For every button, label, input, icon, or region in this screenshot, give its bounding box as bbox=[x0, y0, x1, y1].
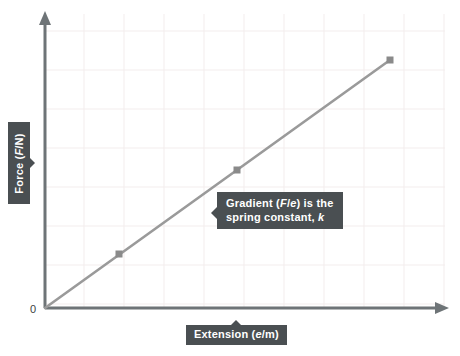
chart-canvas: 0 Force (F/N) Extension (e/m) Gradient (… bbox=[0, 0, 460, 356]
gradient-annotation-line-1: Gradient (F/e) is the bbox=[226, 196, 334, 210]
y-axis-label-symbol: F bbox=[13, 148, 25, 155]
annotation-spring-constant-symbol: k bbox=[318, 211, 324, 223]
x-axis-label: Extension (e/m) bbox=[186, 325, 287, 345]
annotation-line1-suffix: ) is the bbox=[296, 197, 333, 209]
data-point bbox=[234, 167, 241, 174]
y-axis bbox=[39, 11, 51, 308]
y-axis-label-prefix: Force ( bbox=[13, 155, 25, 193]
origin-label: 0 bbox=[30, 303, 36, 315]
x-axis-label-prefix: Extension ( bbox=[194, 328, 256, 340]
up-arrow-icon bbox=[39, 11, 51, 25]
force-extension-plot bbox=[0, 0, 460, 356]
data-point bbox=[387, 57, 394, 64]
data-line bbox=[45, 60, 390, 308]
data-point bbox=[116, 251, 123, 258]
y-axis-label: Force (F/N) bbox=[8, 122, 30, 204]
y-axis-label-suffix: /N) bbox=[13, 133, 25, 148]
annotation-line1-prefix: Gradient ( bbox=[226, 197, 280, 209]
gradient-annotation: Gradient (F/e) is the spring constant, k bbox=[217, 192, 343, 229]
gradient-annotation-line-2: spring constant, k bbox=[226, 210, 334, 224]
annotation-force-symbol: F bbox=[280, 197, 287, 209]
annotation-line2-prefix: spring constant, bbox=[226, 211, 318, 223]
x-axis-label-suffix: /m) bbox=[262, 328, 279, 340]
